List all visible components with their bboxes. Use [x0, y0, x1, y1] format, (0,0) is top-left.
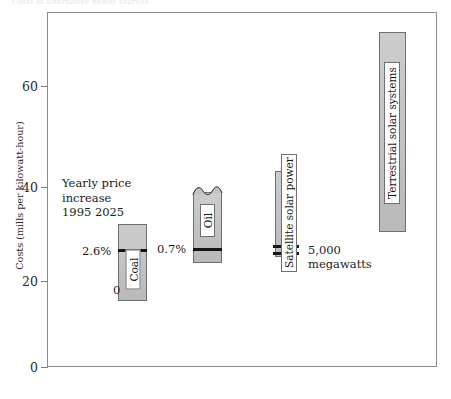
coal-percent-label: 2.6% — [82, 244, 111, 258]
y-tick-mark-0 — [41, 367, 48, 368]
bar-oil-divider — [193, 248, 222, 251]
bar-coal-label: Coal — [126, 250, 141, 290]
oil-percent-label: 0.7% — [157, 242, 186, 256]
y-tick-label-40: 40 — [4, 180, 38, 195]
y-tick-label-20: 20 — [4, 274, 38, 289]
bar-satellite-solar-power-label: Satellite solar power — [281, 154, 297, 272]
bar-oil-label: Oil — [200, 204, 215, 237]
oil-axis-break-wave-icon — [192, 184, 223, 198]
y-tick-mark-60 — [41, 86, 48, 87]
coal-zero-label: 0 — [113, 283, 120, 297]
bar-terrestrial-solar-systems-label: Terrestrial solar systems — [384, 62, 400, 204]
y-axis-title: Costs (mills per kilowatt-hour) — [14, 91, 25, 301]
megawatt-note: 5,000 megawatts — [308, 243, 372, 271]
y-tick-label-60: 60 — [4, 79, 38, 94]
y-tick-mark-40 — [41, 187, 48, 188]
yearly-price-increase-note: Yearly price increase 1995 2025 — [62, 176, 131, 220]
y-tick-label-0: 0 — [4, 360, 38, 375]
cut-off-caption: Costs of alternative power sources — [12, 0, 212, 5]
y-tick-mark-20 — [41, 281, 48, 282]
